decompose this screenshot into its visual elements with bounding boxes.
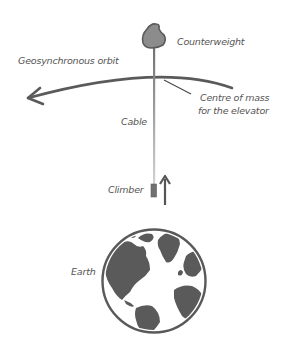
earth-globe-icon: [103, 230, 206, 337]
counterweight-label: Counterweight: [177, 36, 244, 48]
geosynchronous-orbit-label: Geosynchronous orbit: [18, 55, 119, 67]
centre-of-mass-pointer: [164, 80, 191, 94]
earth-label: Earth: [71, 266, 95, 278]
space-elevator-diagram: [0, 0, 281, 346]
climber-label: Climber: [108, 184, 144, 196]
centre-of-mass-label-line1: Centre of mass: [200, 92, 269, 104]
centre-of-mass-label-line2: for the elevator: [198, 105, 269, 117]
cable-line: [153, 46, 155, 186]
up-arrow-icon: [160, 176, 170, 205]
climber-icon: [151, 184, 157, 197]
counterweight-icon: [143, 24, 166, 48]
cable-label: Cable: [121, 116, 147, 128]
